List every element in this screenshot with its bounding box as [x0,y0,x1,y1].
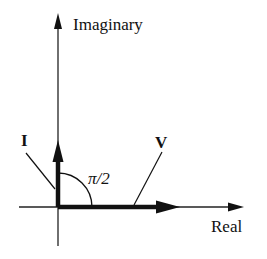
phasor-v-arrowhead-icon [156,201,180,214]
real-axis-arrowhead-icon [228,203,244,212]
imaginary-axis-arrowhead-icon [54,13,62,29]
imaginary-axis [54,13,62,246]
imaginary-axis-label: Imaginary [73,15,143,34]
phasor-i-leader-line [26,153,55,189]
phasor-diagram: Imaginary Real π/2 I V [0,0,267,259]
angle-label: π/2 [88,169,110,188]
phasor-v-leader-line [134,152,162,205]
angle-arc [58,173,92,207]
phasor-v [58,201,180,214]
real-axis-label: Real [211,217,242,236]
phasor-v-label: V [155,133,168,152]
phasor-i-label: I [21,131,28,150]
phasor-i-arrowhead-icon [53,140,64,162]
